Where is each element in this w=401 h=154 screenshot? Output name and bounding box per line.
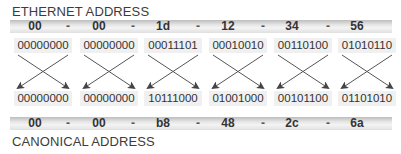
canonical-binary-byte: 00000000 [80, 91, 138, 106]
separator: - [323, 117, 333, 130]
canonical-hex-byte: 48 [208, 117, 248, 130]
canonical-binary-byte: 00000000 [14, 91, 72, 106]
bit-reversal-arrows [0, 0, 401, 154]
canonical-hex-byte: 00 [79, 117, 119, 130]
separator: - [193, 117, 203, 130]
canonical-hex-byte: 2c [272, 117, 312, 130]
canonical-binary-byte: 01001000 [209, 91, 267, 106]
separator: - [258, 117, 268, 130]
separator: - [63, 117, 73, 130]
canonical-hex-byte: 00 [15, 117, 55, 130]
canonical-hex-byte: b8 [143, 117, 183, 130]
canonical-binary-byte: 00101100 [274, 91, 332, 106]
canonical-binary-byte: 01101010 [338, 91, 396, 106]
canonical-binary-byte: 10111000 [144, 91, 202, 106]
canonical-hex-band: 00 - 00 - b8 - 48 - 2c - 6a [10, 117, 392, 130]
separator: - [128, 117, 138, 130]
canonical-address-title: CANONICAL ADDRESS [12, 134, 155, 149]
canonical-hex-byte: 6a [337, 117, 377, 130]
